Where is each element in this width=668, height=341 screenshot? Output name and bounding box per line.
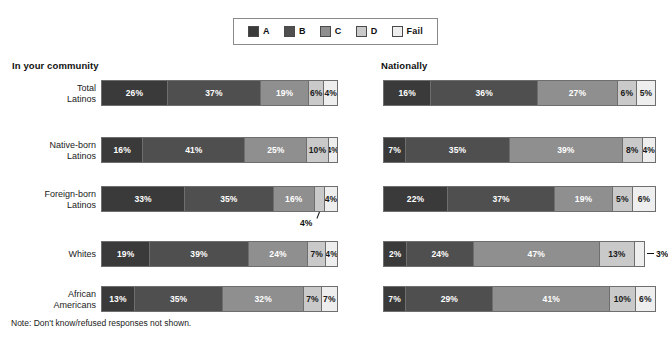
bar-segment-c: 16%: [274, 187, 315, 211]
bar-segment-b: 35%: [185, 187, 273, 211]
bar-segment-a: 16%: [102, 138, 143, 162]
bar-segment-c: 19%: [555, 187, 612, 211]
bar-segment-b: 37%: [168, 81, 261, 105]
bar-segment-fail: 4%: [329, 138, 337, 162]
legend-label-c: C: [335, 27, 342, 36]
bar-segment-d: 10%: [307, 138, 328, 162]
table-row: African Americans 13% 35% 32% 7% 7%: [101, 286, 338, 312]
legend-swatch-c-icon: [320, 26, 331, 37]
bar-segment-c: 47%: [474, 242, 600, 266]
bar-segment-fail: 4%: [325, 187, 337, 211]
bar-left-total-latinos: 26% 37% 19% 6% 4%: [101, 80, 338, 106]
table-row: Foreign-born Latinos 33% 35% 16% 4% 4% 4…: [101, 186, 338, 212]
bar-segment-a: 19%: [102, 242, 150, 266]
bar-left-african-americans: 13% 35% 32% 7% 7%: [101, 286, 338, 312]
legend-swatch-fail-icon: [392, 26, 403, 37]
bar-segment-b: 35%: [406, 138, 510, 162]
bar-segment-c: 39%: [510, 138, 623, 162]
bar-segment-c: 24%: [249, 242, 309, 266]
table-row: 7% 35% 39% 8% 4%: [383, 137, 656, 163]
chart-legend: A B C D Fail: [233, 18, 438, 45]
bar-left-foreign-born: 33% 35% 16% 4% 4%: [101, 186, 338, 212]
bar-right-total-latinos: 16% 36% 27% 6% 5%: [383, 80, 656, 106]
bar-segment-d: 13%: [600, 242, 635, 266]
bar-segment-b: 24%: [407, 242, 473, 266]
table-row: 7% 29% 41% 10% 6%: [383, 286, 656, 312]
row-label-african-americans: African Americans: [6, 289, 96, 310]
row-label-foreign-born-latinos: Foreign-born Latinos: [6, 189, 96, 210]
legend-item-b: B: [284, 26, 306, 37]
legend-label-b: B: [299, 27, 306, 36]
bar-segment-b: 41%: [143, 138, 245, 162]
bar-segment-a: 7%: [384, 138, 406, 162]
bar-segment-c: 19%: [261, 81, 309, 105]
bar-segment-fail: 4%: [643, 138, 655, 162]
legend-item-c: C: [320, 26, 342, 37]
legend-label-d: D: [371, 27, 378, 36]
bar-segment-fail: 4%: [326, 242, 337, 266]
table-row: 2% 24% 47% 13% 3% 3%: [383, 241, 645, 267]
bar-segment-d: 7%: [308, 242, 326, 266]
bar-segment-fail: 6%: [633, 187, 655, 211]
bar-segment-a: 33%: [102, 187, 185, 211]
bar-left-native-born: 16% 41% 25% 10% 4%: [101, 137, 338, 163]
table-row: Whites 19% 39% 24% 7% 4%: [101, 241, 338, 267]
bar-left-whites: 19% 39% 24% 7% 4%: [101, 241, 338, 267]
legend-swatch-b-icon: [284, 26, 295, 37]
bar-segment-fail: 5%: [637, 81, 655, 105]
callout-leader-line: [316, 212, 320, 219]
legend-label-fail: Fail: [407, 27, 423, 36]
bar-segment-d: 5%: [613, 187, 633, 211]
panel-title-nationally: Nationally: [381, 60, 427, 71]
bar-segment-d: 8%: [623, 138, 643, 162]
legend-swatch-d-icon: [356, 26, 367, 37]
row-label-native-born-latinos: Native-born Latinos: [6, 140, 96, 161]
table-row: 22% 37% 19% 5% 6%: [383, 186, 656, 212]
bar-segment-fail: 7%: [322, 287, 337, 311]
callout-label-whites-fail: 3%: [656, 249, 668, 259]
bar-segment-d: 4%: [315, 187, 325, 211]
legend-item-d: D: [356, 26, 378, 37]
bar-segment-d: 10%: [610, 287, 636, 311]
callout-label-foreign-born-d: 4%: [300, 218, 312, 228]
bar-segment-c: 27%: [538, 81, 618, 105]
chart-footnote: Note: Don't know/refused responses not s…: [11, 318, 191, 328]
bar-segment-b: 37%: [448, 187, 555, 211]
bar-segment-a: 22%: [384, 187, 448, 211]
bar-segment-fail: 6%: [636, 287, 655, 311]
bar-right-african-americans: 7% 29% 41% 10% 6%: [383, 286, 656, 312]
bar-segment-c: 25%: [245, 138, 307, 162]
bar-segment-d: 6%: [309, 81, 324, 105]
bar-segment-b: 36%: [431, 81, 538, 105]
panel-title-community: In your community: [12, 60, 99, 71]
bar-right-native-born: 7% 35% 39% 8% 4%: [383, 137, 656, 163]
row-label-total-latinos: Total Latinos: [6, 83, 96, 104]
bar-segment-a: 26%: [102, 81, 168, 105]
legend-label-a: A: [263, 27, 270, 36]
bar-segment-fail: 4%: [324, 81, 337, 105]
bar-right-whites: 2% 24% 47% 13% 3%: [383, 241, 645, 267]
legend-item-a: A: [248, 26, 270, 37]
table-row: Total Latinos 26% 37% 19% 6% 4%: [101, 80, 338, 106]
legend-swatch-a-icon: [248, 26, 259, 37]
bar-segment-a: 2%: [384, 242, 407, 266]
bar-segment-d: 6%: [618, 81, 637, 105]
row-label-whites: Whites: [6, 249, 96, 260]
bar-segment-d: 7%: [304, 287, 322, 311]
bar-segment-c: 41%: [493, 287, 610, 311]
bar-segment-a: 13%: [102, 287, 135, 311]
bar-segment-a: 7%: [384, 287, 406, 311]
callout-leader-line: [647, 253, 654, 254]
bar-right-foreign-born: 22% 37% 19% 5% 6%: [383, 186, 656, 212]
bar-segment-c: 32%: [223, 287, 304, 311]
bar-segment-b: 29%: [406, 287, 493, 311]
table-row: 16% 36% 27% 6% 5%: [383, 80, 656, 106]
bar-segment-fail: 3%: [635, 242, 644, 266]
table-row: Native-born Latinos 16% 41% 25% 10% 4%: [101, 137, 338, 163]
bar-segment-b: 35%: [135, 287, 223, 311]
bar-segment-b: 39%: [150, 242, 248, 266]
legend-item-fail: Fail: [392, 26, 423, 37]
bar-segment-a: 16%: [384, 81, 431, 105]
